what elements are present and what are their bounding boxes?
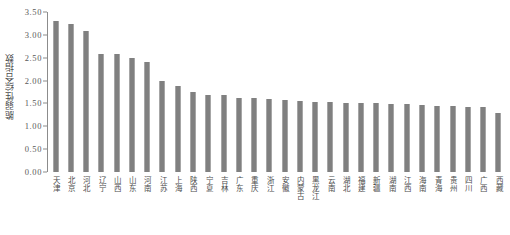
- x-axis-category-label-text: 西藏: [495, 176, 503, 192]
- bar-slot: [155, 12, 170, 172]
- x-axis-category-labels: 天津北京河北辽宁山西山东河南江苏上海陕西宁夏吉林广东重庆浙江安徽内蒙古黑龙江云南…: [48, 174, 506, 232]
- x-axis-category-label: 内蒙古: [292, 174, 307, 232]
- bar[interactable]: [190, 92, 196, 172]
- x-axis-category-label: 海南: [414, 174, 429, 232]
- bar[interactable]: [419, 105, 425, 172]
- x-axis-category-label: 四川: [460, 174, 475, 232]
- bar[interactable]: [358, 103, 364, 172]
- bar-slot: [414, 12, 429, 172]
- bar-slot: [292, 12, 307, 172]
- x-axis-category-label: 黑龙江: [308, 174, 323, 232]
- bar[interactable]: [434, 106, 440, 172]
- x-axis-category-label-text: 上海: [174, 176, 182, 192]
- bar[interactable]: [450, 106, 456, 172]
- y-axis-tick-mark: [43, 149, 47, 150]
- y-axis-tick-mark: [43, 80, 47, 81]
- bar[interactable]: [114, 54, 120, 172]
- bar[interactable]: [465, 107, 471, 172]
- bar-slot: [140, 12, 155, 172]
- bar[interactable]: [480, 107, 486, 172]
- x-axis-category-label: 湖南: [384, 174, 399, 232]
- x-axis-category-label-text: 吉林: [220, 176, 228, 192]
- y-axis-tick-label: 2.50: [25, 53, 42, 63]
- bar[interactable]: [373, 103, 379, 172]
- x-axis-category-label-text: 湖南: [388, 176, 396, 192]
- y-axis-tick-mark: [43, 57, 47, 58]
- bar[interactable]: [98, 54, 104, 172]
- bar[interactable]: [159, 81, 165, 172]
- y-axis-tick-label: 1.00: [25, 121, 42, 131]
- bar-slot: [185, 12, 200, 172]
- x-axis-category-label: 吉林: [216, 174, 231, 232]
- bar[interactable]: [297, 101, 303, 172]
- bar-slot: [338, 12, 353, 172]
- x-axis-category-label: 江苏: [155, 174, 170, 232]
- bar[interactable]: [312, 102, 318, 172]
- bar-slot: [124, 12, 139, 172]
- bar-slot: [170, 12, 185, 172]
- x-axis-category-label: 陕西: [185, 174, 200, 232]
- x-axis-category-label-text: 广东: [235, 176, 243, 192]
- bar-slot: [475, 12, 490, 172]
- y-axis-tick-label: 1.50: [25, 98, 42, 108]
- x-axis-category-label: 河南: [140, 174, 155, 232]
- x-axis-category-label: 天津: [48, 174, 63, 232]
- x-axis-category-label: 青海: [430, 174, 445, 232]
- bar[interactable]: [327, 102, 333, 172]
- bar[interactable]: [266, 99, 272, 172]
- x-axis-category-label-text: 山东: [128, 176, 136, 192]
- x-axis-category-label: 上海: [170, 174, 185, 232]
- bar-slot: [323, 12, 338, 172]
- bar[interactable]: [53, 21, 59, 172]
- y-axis-tick-mark: [43, 103, 47, 104]
- y-axis-title-label: 脆弱性综合指数: [2, 53, 15, 120]
- bar-slot: [262, 12, 277, 172]
- bar[interactable]: [495, 113, 501, 172]
- bar-slot: [216, 12, 231, 172]
- y-axis-tick-mark: [43, 12, 47, 13]
- bar-slot: [353, 12, 368, 172]
- x-axis-category-label-text: 安徽: [281, 176, 289, 192]
- x-axis-category-label-text: 江苏: [159, 176, 167, 192]
- bar[interactable]: [175, 86, 181, 172]
- x-axis-category-label-text: 黑龙江: [311, 176, 319, 200]
- x-axis-category-label-text: 河北: [82, 176, 90, 192]
- bar[interactable]: [68, 24, 74, 172]
- bar[interactable]: [343, 103, 349, 172]
- y-axis-tick-label: 0.50: [25, 144, 42, 154]
- x-axis-category-label: 云南: [323, 174, 338, 232]
- bar[interactable]: [251, 98, 257, 172]
- y-axis-tick-label: 3.50: [25, 7, 42, 17]
- bar[interactable]: [282, 100, 288, 172]
- bar[interactable]: [221, 95, 227, 172]
- x-axis-category-label: 福建: [353, 174, 368, 232]
- x-axis-category-label: 广东: [231, 174, 246, 232]
- bar[interactable]: [144, 62, 150, 172]
- bar[interactable]: [388, 104, 394, 172]
- bar[interactable]: [404, 104, 410, 172]
- bar-slot: [201, 12, 216, 172]
- x-axis-category-label-text: 四川: [464, 176, 472, 192]
- bar[interactable]: [236, 98, 242, 173]
- x-axis-category-label: 贵州: [445, 174, 460, 232]
- x-axis-category-label-text: 北京: [67, 176, 75, 192]
- x-axis-category-label-text: 海南: [418, 176, 426, 192]
- x-axis-category-label: 北京: [63, 174, 78, 232]
- x-axis-category-label: 浙江: [262, 174, 277, 232]
- bar-slot: [384, 12, 399, 172]
- x-axis-category-label: 江西: [399, 174, 414, 232]
- x-axis-category-label-text: 天津: [52, 176, 60, 192]
- x-axis-category-label-text: 山西: [113, 176, 121, 192]
- x-axis-category-label-text: 辽宁: [98, 176, 106, 192]
- x-axis-category-label: 辽宁: [94, 174, 109, 232]
- bar-slot: [231, 12, 246, 172]
- x-axis-category-label: 宁夏: [201, 174, 216, 232]
- x-axis-category-label: 湖北: [338, 174, 353, 232]
- x-axis-category-label: 山东: [124, 174, 139, 232]
- y-axis-tick-labels: 3.503.002.502.001.501.000.500.00: [14, 12, 46, 172]
- bar-slot: [63, 12, 78, 172]
- y-axis-tick-mark: [43, 172, 47, 173]
- bar[interactable]: [129, 58, 135, 172]
- bar[interactable]: [83, 31, 89, 172]
- bar[interactable]: [205, 95, 211, 172]
